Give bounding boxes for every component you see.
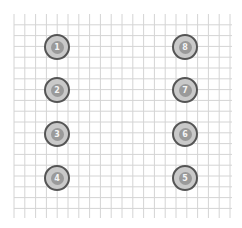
pin-8: 8 <box>172 34 198 60</box>
grid-background <box>0 0 242 228</box>
pin-label: 7 <box>179 84 192 97</box>
pin-2: 2 <box>44 77 70 103</box>
pin-label: 1 <box>51 41 64 54</box>
pin-6: 6 <box>172 121 198 147</box>
pin-label: 4 <box>51 172 64 185</box>
pin-label: 2 <box>51 84 64 97</box>
pin-4: 4 <box>44 165 70 191</box>
pin-1: 1 <box>44 34 70 60</box>
pin-label: 5 <box>179 172 192 185</box>
pin-5: 5 <box>172 165 198 191</box>
pin-3: 3 <box>44 121 70 147</box>
pin-label: 6 <box>179 128 192 141</box>
pin-label: 8 <box>179 41 192 54</box>
pin-7: 7 <box>172 77 198 103</box>
pin-label: 3 <box>51 128 64 141</box>
